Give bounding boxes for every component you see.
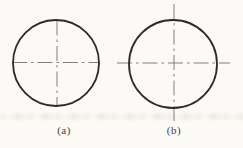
panel-a-label: (a) [44, 124, 84, 136]
centerline-drawing [0, 0, 243, 148]
panel-b-label: (b) [154, 124, 194, 136]
panel-b-circle-outline [129, 20, 217, 108]
figure-canvas: (a) (b) [0, 0, 243, 148]
